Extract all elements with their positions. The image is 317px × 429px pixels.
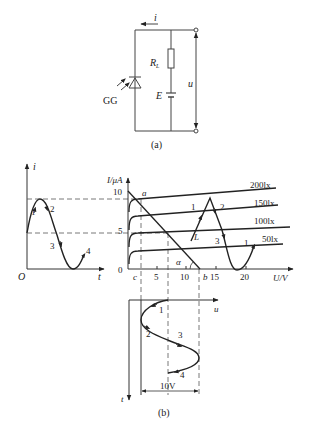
curve-50lx (129, 244, 283, 264)
left-point-3: 3 (50, 241, 55, 251)
device-label: GG (103, 95, 117, 106)
current-label: i (154, 12, 157, 23)
curve-label-50lx: 50lx (262, 234, 279, 244)
main-x-label: U/V (273, 273, 289, 283)
left-y-label: i (33, 161, 36, 172)
point-b: b (203, 272, 208, 282)
circuit-diagram (117, 24, 198, 133)
projection-lines (27, 199, 199, 395)
left-point-2: 2 (50, 204, 55, 214)
figure: i RL E u GG (a) i t O 1 2 3 4 (0, 0, 317, 429)
x-tick-20: 20 (240, 272, 250, 282)
left-plot (27, 164, 104, 269)
load-line (128, 191, 200, 269)
bottom-y-label: t (121, 394, 124, 404)
y-tick-10: 10 (113, 187, 123, 197)
bottom-point-1: 1 (159, 305, 164, 315)
curve-label-100lx: 100lx (254, 216, 275, 226)
angle-alpha: α (176, 257, 181, 267)
y-tick-0: 0 (118, 265, 123, 275)
photodiode-icon (117, 77, 141, 90)
terminal-bottom (194, 129, 198, 133)
resistor-label: RL (149, 57, 160, 69)
bottom-point-4: 4 (180, 370, 185, 380)
resistor-icon (168, 49, 174, 68)
voltage-label: u (188, 78, 193, 89)
dimension-10v: 10V (160, 381, 176, 391)
point-c: c (133, 272, 137, 282)
load-point-L: L (193, 232, 199, 242)
main-point-1: 1 (191, 202, 196, 212)
left-x-label: t (98, 271, 101, 282)
bottom-x-label: u (214, 304, 219, 314)
point-a: a (142, 188, 147, 198)
x-tick-15: 15 (210, 272, 220, 282)
y-tick-5: 5 (118, 226, 123, 236)
x-tick-10: 10 (180, 272, 190, 282)
caption-b: (b) (158, 407, 170, 419)
terminal-top (194, 28, 198, 32)
caption-a: (a) (151, 139, 162, 151)
left-point-4: 4 (86, 246, 91, 256)
curve-label-200lx: 200lx (250, 180, 271, 190)
bottom-point-2: 2 (146, 329, 151, 339)
main-point-3: 3 (215, 236, 220, 246)
left-point-1: 1 (31, 207, 36, 217)
main-y-label: I/μA (106, 175, 123, 185)
main-point-2: 2 (220, 202, 225, 212)
x-tick-5: 5 (154, 272, 159, 282)
left-origin-label: O (18, 271, 25, 282)
source-label: E (155, 90, 162, 101)
bottom-point-3: 3 (178, 330, 183, 340)
main-point-1b: 1 (244, 238, 249, 248)
curve-label-150lx: 150lx (254, 198, 275, 208)
